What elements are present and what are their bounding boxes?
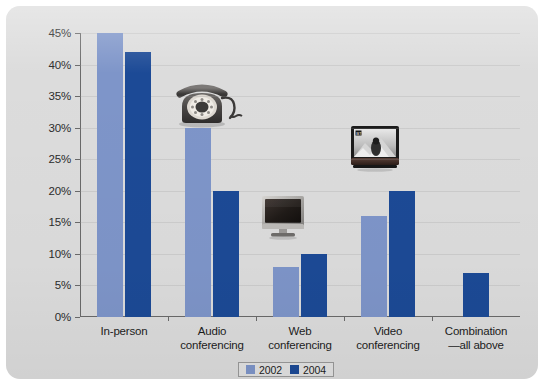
x-axis-tick	[344, 317, 345, 321]
x-axis-label-line: Audio	[168, 325, 256, 339]
legend-entry-2002: 2002	[246, 364, 282, 376]
x-axis-label-line: conferencing	[168, 339, 256, 353]
y-axis-tick-label: 30%	[49, 122, 71, 134]
x-axis-label: Webconferencing	[256, 325, 344, 352]
x-axis-label-line: conferencing	[344, 339, 432, 353]
x-axis-label: In-person	[80, 325, 168, 339]
y-axis-tick-label: 40%	[49, 59, 71, 71]
y-axis-line	[80, 33, 81, 317]
y-axis-tick-label: 20%	[49, 185, 71, 197]
y-axis-tick	[75, 191, 80, 192]
x-axis-label: Videoconferencing	[344, 325, 432, 352]
y-axis-tick	[75, 65, 80, 66]
x-axis-label-line: Web	[256, 325, 344, 339]
y-axis-tick-label: 45%	[49, 27, 71, 39]
bar-2004-1	[213, 191, 239, 317]
legend-label-2002: 2002	[259, 364, 282, 376]
legend: 20022004	[238, 362, 334, 377]
bar-2004-2	[301, 254, 327, 317]
y-axis-tick	[75, 128, 80, 129]
legend-swatch-2002	[246, 365, 255, 374]
bar-2004-4	[463, 273, 489, 317]
bar-2004-3	[389, 191, 415, 317]
plot-area: 0%5%10%15%20%25%30%35%40%45% In-personAu…	[80, 33, 520, 317]
chart-figure: BT 0%5%10%15%20%25%30%35%40%45% In-perso…	[0, 0, 544, 385]
bar-2002-0	[97, 33, 123, 317]
y-axis-tick	[75, 254, 80, 255]
gridline	[80, 33, 520, 34]
y-axis-tick-label: 5%	[55, 279, 71, 291]
y-axis-tick	[75, 285, 80, 286]
x-axis-label-line: In-person	[80, 325, 168, 339]
y-axis-tick	[75, 96, 80, 97]
x-axis-label-line: Video	[344, 325, 432, 339]
chart-panel: BT 0%5%10%15%20%25%30%35%40%45% In-perso…	[6, 6, 538, 379]
bar-2002-3	[361, 216, 387, 317]
y-axis-tick-label: 15%	[49, 216, 71, 228]
bar-2004-0	[125, 52, 151, 317]
x-axis-label: Audioconferencing	[168, 325, 256, 352]
y-axis-tick	[75, 222, 80, 223]
bar-2002-1	[185, 128, 211, 317]
legend-swatch-2004	[290, 365, 299, 374]
legend-entry-2004: 2004	[290, 364, 326, 376]
y-axis-tick-label: 35%	[49, 90, 71, 102]
x-axis-label-line: —all above	[432, 339, 520, 353]
x-axis-tick	[432, 317, 433, 321]
legend-label-2004: 2004	[303, 364, 326, 376]
x-axis-label-line: Combination	[432, 325, 520, 339]
y-axis-tick-label: 0%	[55, 311, 71, 323]
y-axis-tick	[75, 159, 80, 160]
x-axis-tick	[256, 317, 257, 321]
y-axis-tick	[75, 317, 80, 318]
x-axis-label-line: conferencing	[256, 339, 344, 353]
y-axis-tick	[75, 33, 80, 34]
x-axis-tick	[168, 317, 169, 321]
x-axis-label: Combination—all above	[432, 325, 520, 352]
y-axis-tick-label: 25%	[49, 153, 71, 165]
bar-2002-2	[273, 267, 299, 317]
y-axis-tick-label: 10%	[49, 248, 71, 260]
